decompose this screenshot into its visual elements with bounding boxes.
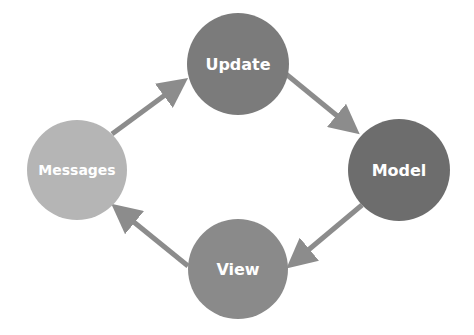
node-update: Update bbox=[187, 13, 289, 115]
arrow-view-to-messages bbox=[119, 210, 188, 266]
arrow-update-to-model bbox=[286, 74, 352, 128]
node-view: View bbox=[188, 219, 288, 319]
node-model-label: Model bbox=[372, 161, 427, 180]
arrow-model-to-view bbox=[294, 205, 362, 262]
node-messages: Messages bbox=[27, 120, 127, 220]
node-update-label: Update bbox=[205, 55, 270, 74]
node-view-label: View bbox=[216, 260, 259, 279]
node-model: Model bbox=[348, 119, 450, 221]
arrow-messages-to-update bbox=[112, 84, 180, 134]
node-messages-label: Messages bbox=[38, 162, 115, 178]
